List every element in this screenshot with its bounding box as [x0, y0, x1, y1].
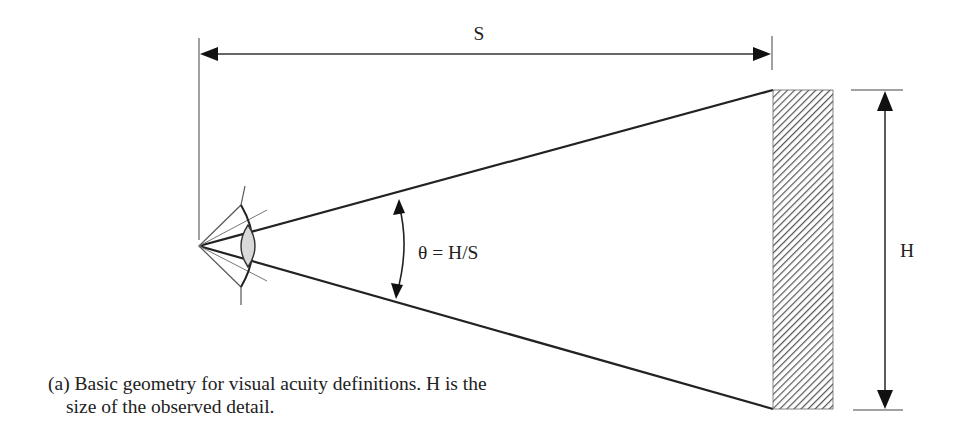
observed-detail [773, 90, 833, 409]
arrow-down-icon [391, 283, 403, 299]
eye-icon [199, 186, 267, 305]
sight-lines [199, 90, 773, 409]
arrow-left-icon [200, 47, 218, 61]
dimension-s-label: S [474, 23, 485, 44]
angle-theta: θ = H/S [391, 199, 478, 299]
dimension-h [851, 90, 903, 410]
arrow-down-icon [877, 390, 893, 409]
dimension-h-label: H [900, 240, 914, 261]
figure-caption: (a) Basic geometry for visual acuity def… [48, 372, 506, 418]
arrow-up-icon [877, 91, 893, 111]
angle-label: θ = H/S [418, 242, 478, 263]
arrow-up-icon [393, 199, 405, 215]
arrow-right-icon [753, 47, 771, 61]
dimension-s [199, 36, 772, 240]
